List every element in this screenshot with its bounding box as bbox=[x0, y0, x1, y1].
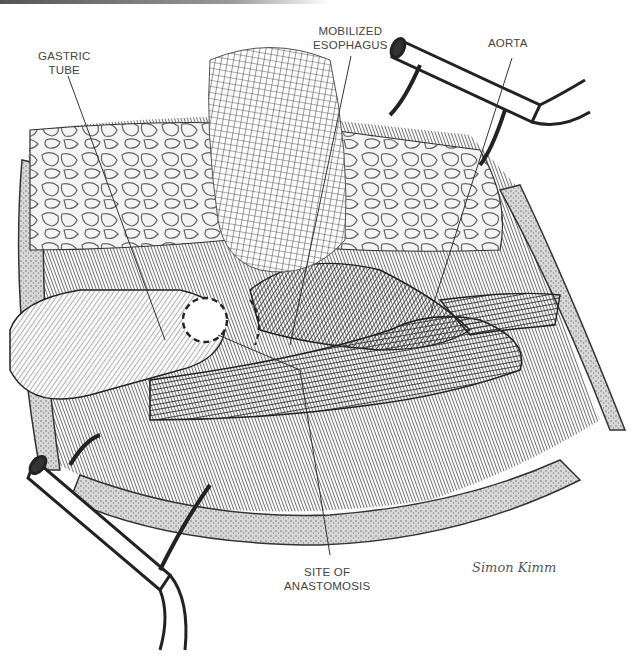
label-aorta: AORTA bbox=[488, 36, 528, 50]
label-gastric-tube: GASTRIC TUBE bbox=[38, 49, 91, 77]
artist-signature: Simon Kimm bbox=[472, 560, 556, 575]
label-site-of-anastomosis: SITE OF ANASTOMOSIS bbox=[284, 565, 370, 593]
label-mobilized-esophagus: MOBILIZED ESOPHAGUS bbox=[313, 24, 388, 52]
